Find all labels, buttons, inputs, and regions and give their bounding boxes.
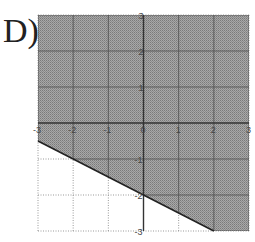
svg-text:2: 2 — [139, 47, 144, 57]
svg-text:-3: -3 — [33, 125, 41, 135]
svg-text:3: 3 — [246, 125, 251, 135]
svg-text:0: 0 — [141, 125, 146, 135]
svg-text:1: 1 — [139, 83, 144, 93]
svg-text:-1: -1 — [103, 125, 111, 135]
svg-text:-1: -1 — [135, 155, 143, 165]
svg-text:-2: -2 — [68, 125, 76, 135]
inequality-graph: -3-2-10123 321-1-2-3 — [0, 0, 255, 242]
svg-text:3: 3 — [139, 11, 144, 21]
svg-text:1: 1 — [176, 125, 181, 135]
svg-text:-3: -3 — [135, 227, 143, 237]
svg-text:2: 2 — [211, 125, 216, 135]
svg-text:-2: -2 — [135, 191, 143, 201]
